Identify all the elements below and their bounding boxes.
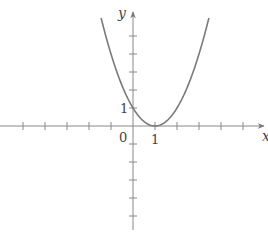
x-axis-label: x — [262, 128, 268, 144]
parabola-chart: x y 0 1 1 — [0, 0, 268, 232]
origin-label: 0 — [119, 130, 127, 145]
axes — [0, 12, 264, 230]
y-tick-label-1: 1 — [120, 101, 128, 116]
parabola-curve — [101, 18, 209, 126]
y-axis-label: y — [117, 5, 127, 21]
x-tick-label-1: 1 — [151, 132, 159, 147]
